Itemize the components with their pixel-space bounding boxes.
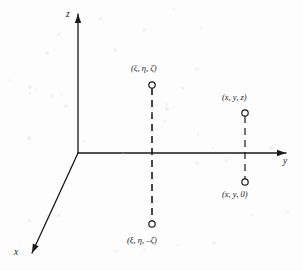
y-axis-label: y: [283, 157, 287, 167]
z-axis-label: z: [66, 10, 70, 20]
point-label-x-y-zero: (x, y, 0): [222, 190, 248, 199]
coordinate-diagram: z y x (ξ, η, ζ) (ξ, η, –ζ) (x, y, z) (x,…: [0, 0, 303, 271]
axis-group: [32, 14, 286, 253]
point-marker-x-y-zero: [242, 179, 248, 185]
z-axis-arrowhead: [75, 14, 81, 23]
point-marker-group: [149, 82, 248, 227]
point-marker-xi-eta-zeta: [149, 82, 155, 88]
x-axis-line: [32, 153, 78, 253]
point-marker-x-y-z: [242, 110, 248, 116]
point-label-xi-eta-zeta: (ξ, η, ζ): [131, 64, 156, 73]
connector-group: [152, 88, 245, 221]
x-axis-label: x: [14, 248, 18, 258]
point-label-xi-eta-neg-zeta: (ξ, η, –ζ): [127, 236, 157, 245]
point-marker-xi-eta-neg-zeta: [149, 221, 155, 227]
diagram-canvas: [0, 0, 303, 271]
point-label-x-y-z: (x, y, z): [222, 93, 247, 102]
x-axis-arrowhead: [32, 243, 39, 253]
